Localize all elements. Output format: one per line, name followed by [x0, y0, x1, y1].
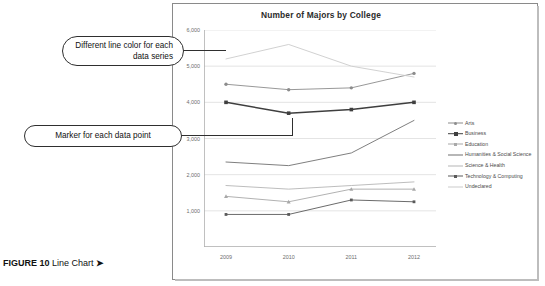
y-axis-tick-label: 6,000: [187, 27, 201, 33]
legend-label: Humanities & Social Science: [465, 152, 531, 157]
marker-callout-leader-vertical: [292, 118, 293, 136]
x-axis-tick-label: 2009: [220, 254, 232, 260]
figure-caption: FIGURE 10 Line Chart ➤: [3, 258, 103, 268]
arrow-icon: ➤: [96, 258, 103, 268]
x-axis-tick-label: 2011: [346, 254, 358, 260]
legend-label: Arts: [465, 121, 474, 126]
legend-swatch-icon: [448, 151, 463, 159]
legend-label: Undeclared: [465, 184, 492, 189]
y-axis-tick-label: 1,000: [187, 208, 201, 214]
legend-item[interactable]: Education: [448, 139, 534, 150]
chart-title: Number of Majors by College: [176, 10, 466, 20]
legend-swatch-icon: [448, 162, 463, 170]
plot-area: 1,0002,0003,0004,0005,0006,0002009201020…: [204, 30, 436, 247]
y-axis-tick-label: 3,000: [187, 136, 201, 142]
legend-label: Business: [465, 131, 486, 136]
legend-label: Science & Health: [465, 163, 505, 168]
legend-item[interactable]: Humanities & Social Science: [448, 150, 534, 161]
legend-label: Technology & Computing: [465, 174, 523, 179]
legend-item[interactable]: Undeclared: [448, 182, 534, 193]
figure-number: FIGURE 10: [3, 258, 50, 268]
legend-item[interactable]: Science & Health: [448, 160, 534, 171]
y-axis-tick-label: 4,000: [187, 99, 201, 105]
legend-item[interactable]: Business: [448, 129, 534, 140]
plot-svg: [204, 30, 436, 247]
legend-swatch-icon: [448, 140, 463, 148]
x-axis-tick-label: 2012: [408, 254, 420, 260]
legend-label: Education: [465, 142, 488, 147]
line-chart: Number of Majors by College 1,0002,0003,…: [176, 6, 534, 274]
marker-callout: Marker for each data point: [24, 125, 182, 147]
legend-swatch-icon: [448, 130, 463, 138]
chart-legend: ArtsBusinessEducationHumanities & Social…: [448, 118, 534, 192]
y-axis-tick-label: 5,000: [187, 63, 201, 69]
legend-swatch-icon: [448, 183, 463, 191]
legend-item[interactable]: Arts: [448, 118, 534, 129]
legend-swatch-icon: [448, 119, 463, 127]
marker-callout-leader-horizontal: [176, 135, 293, 136]
y-axis-tick-label: 2,000: [187, 172, 201, 178]
legend-item[interactable]: Technology & Computing: [448, 171, 534, 182]
figure-title: Line Chart: [52, 258, 94, 268]
legend-swatch-icon: [448, 172, 463, 180]
x-axis-tick-label: 2010: [283, 254, 295, 260]
line-color-callout: Different line color for each data serie…: [62, 36, 184, 66]
